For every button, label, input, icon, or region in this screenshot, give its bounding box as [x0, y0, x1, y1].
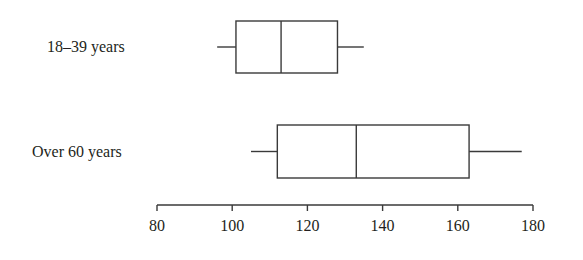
tick-label: 140: [371, 217, 395, 234]
tick-label: 160: [446, 217, 470, 234]
tick-label: 180: [521, 217, 545, 234]
interquartile-box: [236, 21, 338, 73]
tick-label: 120: [295, 217, 319, 234]
category-label-over-60: Over 60 years: [32, 143, 122, 161]
box-18-39-years: [217, 21, 364, 73]
tick-label: 80: [149, 217, 165, 234]
box-plot-chart: 18–39 years Over 60 years 80100120140160…: [0, 0, 583, 260]
x-axis-ticks: 80100120140160180: [149, 205, 545, 234]
tick-label: 100: [220, 217, 244, 234]
category-label-18-39: 18–39 years: [47, 38, 125, 56]
box-over-60-years: [251, 125, 522, 178]
interquartile-box: [277, 125, 469, 178]
